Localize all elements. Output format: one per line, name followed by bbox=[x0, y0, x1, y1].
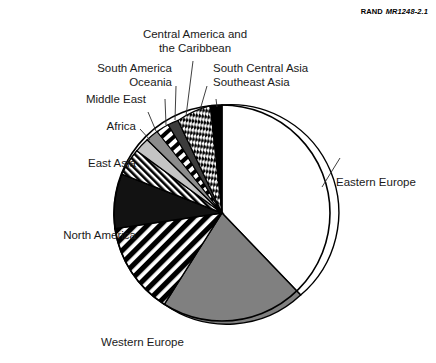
label-north-america: North America bbox=[8, 229, 136, 243]
label-oceania: Oceania bbox=[62, 76, 172, 90]
chart-canvas: RANDMR1248-2.1 bbox=[0, 0, 436, 363]
label-eastern-europe: Eastern Europe bbox=[336, 176, 416, 190]
label-central-america-caribbean: Central America and the Caribbean bbox=[113, 28, 277, 55]
label-central-america-line2: the Caribbean bbox=[113, 42, 277, 56]
label-central-america-line1: Central America and bbox=[113, 28, 277, 42]
label-africa: Africa bbox=[48, 120, 136, 134]
leader-line-middle-east bbox=[148, 112, 156, 131]
label-south-central-asia: South Central Asia bbox=[213, 62, 308, 76]
label-south-america: South America bbox=[62, 62, 172, 76]
leader-line-central-america bbox=[186, 61, 193, 116]
label-western-europe: Western Europe bbox=[101, 336, 184, 350]
label-east-asia: East Asia bbox=[30, 157, 136, 171]
label-southeast-asia: Southeast Asia bbox=[213, 76, 290, 90]
label-middle-east: Middle East bbox=[36, 93, 146, 107]
